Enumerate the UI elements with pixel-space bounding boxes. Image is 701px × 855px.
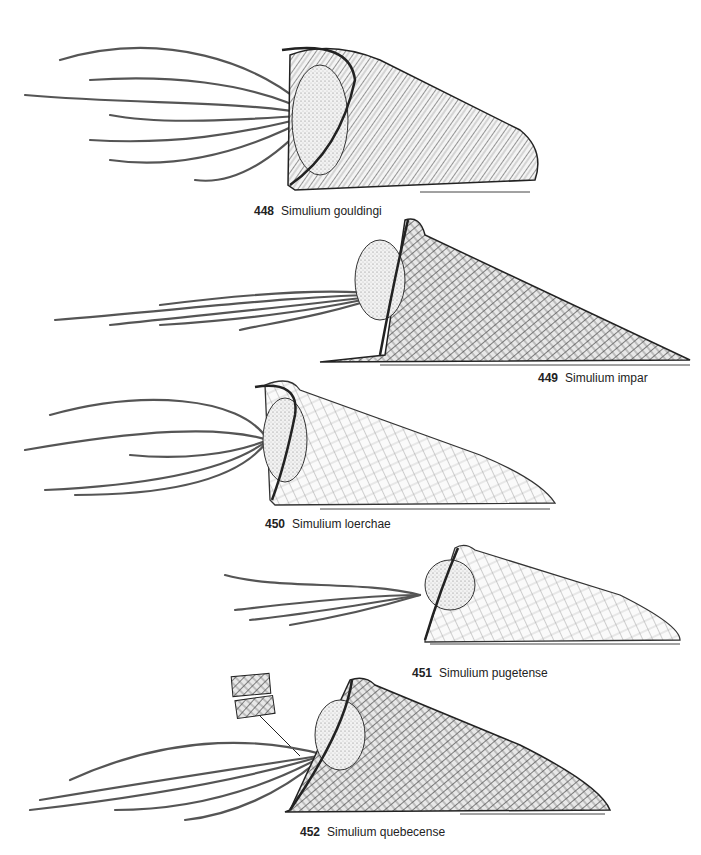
figure-caption-452: 452Simulium quebecense [300,825,445,839]
figure-448: 448Simulium gouldingi [0,0,701,230]
species-name: Simulium loerchae [292,517,391,531]
gill-filaments-icon [25,48,315,181]
figure-caption-450: 450Simulium loerchae [265,517,391,531]
cocoon-illustration-449 [0,215,701,395]
gill-filaments-icon [30,743,325,820]
gill-filaments-icon [25,400,268,495]
figure-number: 452 [300,825,320,839]
figure-451: 451Simulium pugetense [0,540,701,690]
cocoon-illustration-448 [0,0,701,230]
figure-number: 450 [265,517,285,531]
species-name: Simulium quebecense [327,825,445,839]
figure-450: 450Simulium loerchae [0,375,701,545]
figure-452: 452Simulium quebecense [0,670,701,855]
gill-filaments-icon [225,575,420,625]
gill-filaments-icon [55,292,385,330]
figure-449: 449Simulium impar [0,215,701,395]
cocoon-illustration-451 [0,540,701,690]
